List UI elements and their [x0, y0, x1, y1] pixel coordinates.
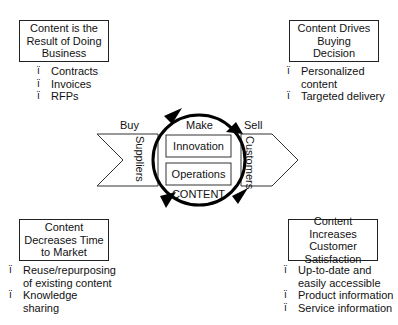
value-chain-diagram: Buy Make Sell Innovation Operations CONT…: [0, 0, 398, 325]
suppliers-chevron: [97, 134, 158, 186]
make-label: Make: [186, 119, 213, 131]
content-label: CONTENT: [172, 188, 225, 200]
operations-label: Operations: [172, 168, 226, 180]
suppliers-label: Suppliers: [134, 136, 146, 182]
innovation-label: Innovation: [173, 140, 224, 152]
arrowhead-icon: [164, 108, 182, 124]
buy-label: Buy: [120, 119, 139, 131]
sell-label: Sell: [244, 119, 262, 131]
customers-label: Customers: [244, 136, 256, 190]
